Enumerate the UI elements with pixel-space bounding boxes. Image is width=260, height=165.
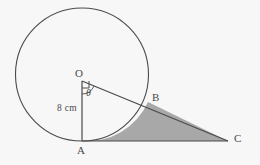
radius-measure-label: 8 cm <box>57 104 77 114</box>
vertex-label-B: B <box>152 92 159 103</box>
angle-label-theta: θ <box>86 88 91 98</box>
geometry-canvas <box>0 0 260 165</box>
vertex-label-C: C <box>234 133 241 144</box>
shaded-region <box>82 102 228 141</box>
vertex-label-A: A <box>77 145 85 156</box>
geometry-figure: O A B C 8 cm θ <box>0 0 260 165</box>
vertex-label-O: O <box>75 68 83 79</box>
